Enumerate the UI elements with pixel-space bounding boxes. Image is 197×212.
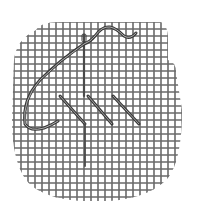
needlepoint-illustration	[0, 0, 197, 212]
canvas-mesh	[10, 22, 186, 201]
